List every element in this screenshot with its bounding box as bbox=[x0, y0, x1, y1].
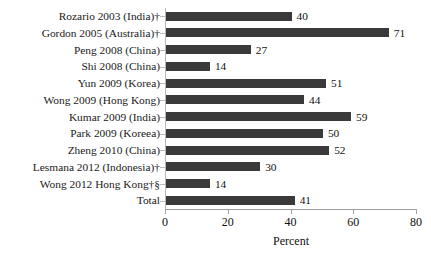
bar-row: Peng 2008 (China)27 bbox=[0, 42, 431, 59]
bar-value-label: 50 bbox=[328, 125, 339, 142]
x-axis-title: Percent bbox=[165, 234, 417, 249]
bar bbox=[166, 146, 329, 155]
x-axis-tick bbox=[228, 209, 229, 214]
bar-row: Yun 2009 (Korea)51 bbox=[0, 75, 431, 92]
bar bbox=[166, 162, 260, 171]
bar-value-label: 59 bbox=[356, 109, 367, 126]
bar-category-label: Total bbox=[0, 192, 160, 209]
bar-value-label: 51 bbox=[331, 75, 342, 92]
bar-row: Lesmana 2012 (Indonesia)†30 bbox=[0, 159, 431, 176]
bar-category-label: Wong 2009 (Hong Kong) bbox=[0, 92, 160, 109]
x-axis-tick-label: 20 bbox=[222, 215, 234, 230]
bar-row: Rozario 2003 (India)†40 bbox=[0, 8, 431, 25]
y-axis-tick bbox=[160, 184, 165, 185]
y-axis-tick bbox=[160, 117, 165, 118]
bar-value-label: 71 bbox=[394, 25, 405, 42]
x-axis-tick bbox=[416, 209, 417, 214]
bar-chart: Rozario 2003 (India)†40Gordon 2005 (Aust… bbox=[0, 0, 431, 258]
y-axis-tick bbox=[160, 33, 165, 34]
x-axis-tick-label: 40 bbox=[285, 215, 297, 230]
bar-value-label: 41 bbox=[300, 192, 311, 209]
y-axis-tick bbox=[160, 167, 165, 168]
bar-value-label: 44 bbox=[309, 92, 320, 109]
bar bbox=[166, 112, 351, 121]
x-axis-tick bbox=[165, 209, 166, 214]
bar bbox=[166, 62, 210, 71]
y-axis-tick bbox=[160, 100, 165, 101]
bar bbox=[166, 45, 251, 54]
bar-row: Gordon 2005 (Australia)†71 bbox=[0, 25, 431, 42]
bar-row: Total41 bbox=[0, 192, 431, 209]
x-axis-tick-label: 60 bbox=[347, 215, 359, 230]
bar-row: Park 2009 (Koreea)50 bbox=[0, 125, 431, 142]
y-axis-tick bbox=[160, 150, 165, 151]
x-axis-tick-label: 0 bbox=[162, 215, 168, 230]
bar-row: Zheng 2010 (China)52 bbox=[0, 142, 431, 159]
bar-category-label: Rozario 2003 (India)† bbox=[0, 8, 160, 25]
bar-value-label: 14 bbox=[215, 58, 226, 75]
bar-category-label: Zheng 2010 (China) bbox=[0, 142, 160, 159]
bar bbox=[166, 95, 304, 104]
y-axis-tick bbox=[160, 50, 165, 51]
bar-row: Wong 2009 (Hong Kong)44 bbox=[0, 92, 431, 109]
bar-category-label: Lesmana 2012 (Indonesia)† bbox=[0, 159, 160, 176]
bar-category-label: Kumar 2009 (India) bbox=[0, 109, 160, 126]
y-axis-tick bbox=[160, 67, 165, 68]
bar-row: Wong 2012 Hong Kong†§14 bbox=[0, 176, 431, 193]
x-axis-tick bbox=[291, 209, 292, 214]
bar-category-label: Gordon 2005 (Australia)† bbox=[0, 25, 160, 42]
bar-category-label: Peng 2008 (China) bbox=[0, 42, 160, 59]
y-axis-tick bbox=[160, 83, 165, 84]
y-axis-tick bbox=[160, 201, 165, 202]
x-axis-tick bbox=[353, 209, 354, 214]
bar-category-label: Yun 2009 (Korea) bbox=[0, 75, 160, 92]
bar bbox=[166, 12, 292, 21]
bar-value-label: 40 bbox=[297, 8, 308, 25]
bar-category-label: Shi 2008 (China) bbox=[0, 58, 160, 75]
bar-category-label: Park 2009 (Koreea) bbox=[0, 125, 160, 142]
y-axis-tick bbox=[160, 134, 165, 135]
bar bbox=[166, 28, 389, 37]
bar-value-label: 14 bbox=[215, 176, 226, 193]
x-axis-tick-label: 80 bbox=[410, 215, 422, 230]
bar-category-label: Wong 2012 Hong Kong†§ bbox=[0, 176, 160, 193]
bar bbox=[166, 196, 295, 205]
bar-value-label: 52 bbox=[334, 142, 345, 159]
bar bbox=[166, 129, 323, 138]
bar bbox=[166, 179, 210, 188]
bar-value-label: 30 bbox=[265, 159, 276, 176]
bar-row: Kumar 2009 (India)59 bbox=[0, 109, 431, 126]
bar bbox=[166, 79, 326, 88]
y-axis-tick bbox=[160, 16, 165, 17]
bar-value-label: 27 bbox=[256, 42, 267, 59]
bar-row: Shi 2008 (China)14 bbox=[0, 58, 431, 75]
